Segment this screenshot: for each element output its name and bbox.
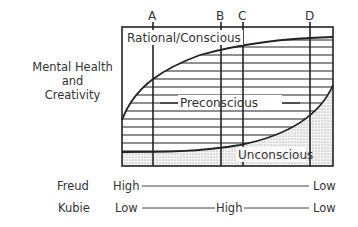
mind-levels-diagram: Mental Health and Creativity (0, 0, 358, 227)
marker-label-b: B (216, 9, 224, 23)
freud-low: Low (313, 179, 336, 193)
region-label-rational-conscious: Rational/Conscious (127, 31, 241, 45)
diagram-graphic: Rational/Conscious Preconscious Unconsci… (0, 0, 358, 227)
kubie-high: High (216, 201, 242, 215)
scale-name-kubie: Kubie (58, 201, 90, 215)
scale-name-freud: Freud (57, 179, 89, 193)
kubie-low-right: Low (313, 201, 336, 215)
region-label-unconscious: Unconscious (238, 148, 313, 162)
marker-label-a: A (148, 9, 157, 23)
freud-high: High (113, 179, 139, 193)
marker-label-d: D (305, 9, 314, 23)
kubie-low-left: Low (115, 201, 138, 215)
region-label-preconscious: Preconscious (180, 96, 258, 110)
marker-label-c: C (238, 9, 246, 23)
